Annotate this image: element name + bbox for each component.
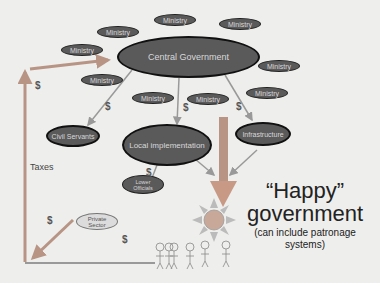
private-sector-arrow	[33, 220, 73, 258]
taxes-label: Taxes	[30, 162, 54, 172]
dollar-label: $	[122, 234, 128, 245]
dollar-label: $	[146, 167, 152, 178]
ministry-node: Ministry	[132, 92, 174, 104]
infrastructure-label: Infrastructure	[242, 131, 283, 138]
central-to-local-arrow	[177, 78, 179, 124]
lower-officials-node: Lower Officials	[122, 175, 164, 194]
private-sector-node: Private Sector	[76, 213, 118, 230]
people-icons	[156, 241, 230, 269]
ministry-label: Ministry	[141, 95, 165, 102]
ministry-node: Ministry	[154, 14, 196, 26]
ministry-node: Ministry	[81, 74, 123, 86]
ministry-node: Ministry	[219, 18, 261, 30]
ministry-node: Ministry	[61, 44, 103, 56]
infrastructure-node: Infrastructure	[235, 122, 291, 146]
infra-to-sun-arrow	[230, 150, 257, 175]
headline-line2: government	[240, 203, 370, 225]
ministry-label: Ministry	[228, 21, 252, 28]
ministry-label: Ministry	[90, 77, 114, 84]
headline-sub1: (can include patronage	[240, 227, 370, 239]
ministry-label: Ministry	[267, 63, 291, 70]
local-implementation-label: Local implementation	[129, 141, 205, 150]
central-government-label: Central Government	[148, 52, 229, 62]
central-government-node: Central Government	[117, 36, 260, 78]
ministry-label: Ministry	[163, 17, 187, 24]
ministry-label: Ministry	[70, 47, 94, 54]
dollar-label: $	[183, 102, 189, 113]
ministry-label: Ministry	[106, 29, 130, 36]
civil-servants-label: Civil Servants	[52, 133, 95, 140]
headline-line1: “Happy”	[240, 180, 370, 202]
dollar-label: $	[35, 80, 41, 91]
taxes-to-central-arrow	[30, 60, 108, 69]
dollar-label: $	[236, 101, 242, 112]
diagram-canvas: Central Government Ministry Ministry Min…	[0, 0, 380, 283]
headline-sub2: systems)	[240, 239, 370, 251]
central-to-infra-arrow	[225, 75, 252, 120]
civil-servants-node: Civil Servants	[46, 125, 100, 147]
local-implementation-node: Local implementation	[122, 124, 212, 166]
dollar-label: $	[47, 215, 53, 226]
ministry-node: Ministry	[258, 60, 300, 72]
lower-officials-label: Lower Officials	[131, 179, 155, 191]
ministry-label: Ministry	[196, 96, 220, 103]
ministry-node: Ministry	[187, 93, 229, 105]
sun-icon	[192, 198, 236, 242]
big-down-arrow-shaft	[219, 117, 228, 183]
ministry-node: Ministry	[246, 87, 288, 99]
ministry-label: Ministry	[255, 90, 279, 97]
ministry-node: Ministry	[97, 26, 139, 38]
dollar-label: $	[105, 101, 111, 112]
private-sector-label: Private Sector	[87, 216, 107, 228]
local-to-sun-arrow	[195, 159, 214, 175]
